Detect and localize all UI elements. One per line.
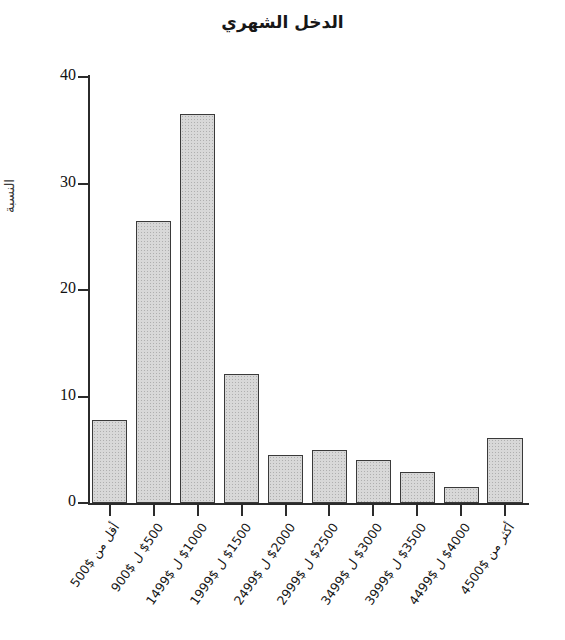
- bar: [444, 487, 479, 503]
- bar: [180, 114, 215, 503]
- bar: [224, 374, 259, 503]
- bar: [312, 450, 347, 503]
- x-axis-tick: [197, 504, 199, 516]
- x-axis-tick-label: أقل من $500: [0, 520, 122, 640]
- chart-title: الدخل الشهري: [0, 12, 565, 32]
- x-axis-tick: [416, 504, 418, 516]
- y-axis-tick-label: 30: [30, 173, 76, 191]
- x-axis-tick: [504, 504, 506, 516]
- bar: [92, 420, 127, 503]
- y-axis-tick-label: 20: [30, 279, 76, 297]
- y-axis-tick-label: 40: [30, 66, 76, 84]
- bar: [356, 460, 391, 503]
- x-axis-tick: [241, 504, 243, 516]
- bar: [136, 221, 171, 503]
- x-axis-tick: [372, 504, 374, 516]
- bar: [268, 455, 303, 503]
- bar: [400, 472, 435, 503]
- plot-area: [88, 77, 527, 503]
- x-axis-tick: [153, 504, 155, 516]
- x-axis-tick: [109, 504, 111, 516]
- y-axis-tick-label: 10: [30, 386, 76, 404]
- monthly-income-bar-chart: الدخل الشهري النسبة 010203040 أقل من $50…: [0, 0, 565, 640]
- x-axis-tick: [285, 504, 287, 516]
- bar: [487, 438, 522, 503]
- y-axis-tick-label: 0: [30, 492, 76, 510]
- x-axis-tick: [460, 504, 462, 516]
- x-axis-tick: [328, 504, 330, 516]
- y-axis-title: النسبة: [2, 136, 17, 256]
